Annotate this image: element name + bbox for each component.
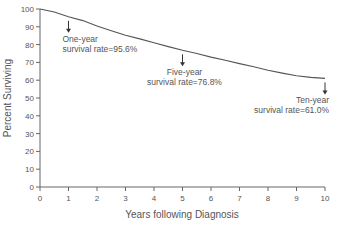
annotation-title: Ten-year [296, 95, 329, 105]
y-tick-label: 100 [21, 5, 35, 14]
x-tick-label: 0 [38, 194, 43, 203]
annotation-title: Five-year [167, 67, 203, 77]
y-tick-label: 90 [25, 23, 34, 32]
annotation-value: survival rate=95.6% [63, 44, 138, 54]
x-tick-label: 7 [237, 194, 242, 203]
y-axis-label: Percent Surviving [2, 59, 13, 137]
y-tick-label: 70 [25, 58, 34, 67]
annotation-value: survival rate=76.8% [147, 77, 222, 87]
x-tick-label: 6 [209, 194, 214, 203]
y-tick-label: 20 [25, 147, 34, 156]
x-tick-label: 10 [321, 194, 330, 203]
y-tick-label: 40 [25, 112, 34, 121]
annotations: One-yearsurvival rate=95.6%Five-yearsurv… [63, 21, 330, 116]
x-tick-label: 8 [266, 194, 271, 203]
y-tick-label: 0 [30, 183, 35, 192]
x-axis-label: Years following Diagnosis [125, 209, 239, 220]
arrowhead-icon [323, 90, 328, 94]
arrowhead-icon [66, 29, 71, 33]
annotation-title: One-year [63, 34, 99, 44]
x-tick-label: 9 [294, 194, 299, 203]
y-tick-label: 50 [25, 94, 34, 103]
x-tick-label: 1 [66, 194, 71, 203]
x-tick-label: 2 [95, 194, 100, 203]
annotation-value: survival rate=61.0% [254, 105, 329, 115]
y-tick-label: 80 [25, 41, 34, 50]
x-tick-label: 3 [123, 194, 128, 203]
x-tick-label: 5 [180, 194, 185, 203]
arrowhead-icon [180, 62, 185, 66]
y-tick-label: 30 [25, 130, 34, 139]
y-tick-label: 60 [25, 76, 34, 85]
x-tick-label: 4 [152, 194, 157, 203]
y-tick-label: 10 [25, 165, 34, 174]
survival-chart: 0102030405060708090100012345678910 One-y… [0, 0, 337, 226]
